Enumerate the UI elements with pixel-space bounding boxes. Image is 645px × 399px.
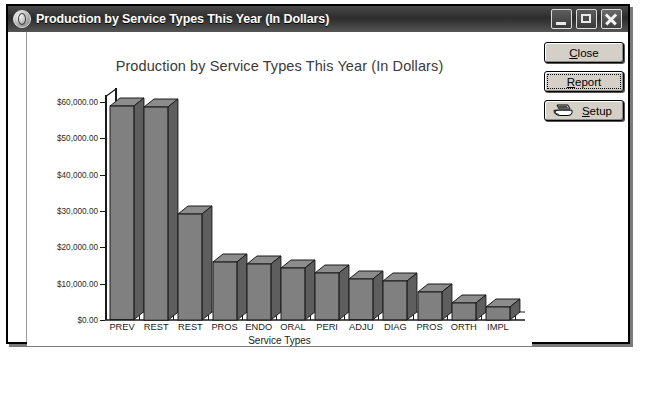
window-controls <box>551 9 622 29</box>
chart-panel: Production by Service Types This Year (I… <box>27 32 532 346</box>
x-tick-mark <box>447 315 448 320</box>
report-button[interactable]: Report <box>544 71 624 92</box>
y-tick-label: $0.00 <box>34 316 98 325</box>
bar <box>178 206 202 320</box>
close-button-label: Close <box>569 47 598 59</box>
bar-3d-faces <box>144 99 178 320</box>
x-tick-label: PROS <box>211 322 237 332</box>
x-tick-mark <box>310 315 311 320</box>
chart-window: Production by Service Types This Year (I… <box>6 4 630 344</box>
bar-3d-faces <box>213 254 247 320</box>
x-tick-label: IMPL <box>487 322 509 332</box>
report-button-label: Report <box>567 76 602 88</box>
x-tick-mark <box>481 315 482 320</box>
y-tick-label: $30,000.00 <box>34 207 98 216</box>
window-title: Production by Service Types This Year (I… <box>36 12 329 26</box>
bar <box>452 295 476 320</box>
bar <box>144 99 168 320</box>
close-button[interactable]: Close <box>544 42 624 63</box>
x-tick-label: REST <box>178 322 203 332</box>
bar-3d-faces <box>247 256 281 320</box>
y-tick-label: $40,000.00 <box>34 170 98 179</box>
x-tick-mark <box>242 315 243 320</box>
bar <box>418 284 442 320</box>
x-axis-title: Service Types <box>27 335 532 346</box>
bar-3d-faces <box>178 206 212 320</box>
x-tick-label: REST <box>144 322 169 332</box>
y-tick-label: $10,000.00 <box>34 279 98 288</box>
bar-chart-plot: $60,000.00$50,000.00$40,000.00$30,000.00… <box>27 32 532 346</box>
x-tick-mark <box>276 315 277 320</box>
maximize-button[interactable] <box>576 9 597 29</box>
bar <box>486 299 510 320</box>
x-tick-label: ADJU <box>349 322 373 332</box>
bar-3d-faces <box>349 271 383 320</box>
bar-3d-faces <box>315 265 349 320</box>
bar-3d-faces <box>281 260 315 320</box>
x-tick-label: ORTH <box>451 322 477 332</box>
x-tick-label: ORAL <box>280 322 305 332</box>
x-tick-label: ENDO <box>245 322 272 332</box>
x-tick-label: PROS <box>416 322 442 332</box>
y-tick-label: $60,000.00 <box>34 98 98 107</box>
window-title-bar[interactable]: Production by Service Types This Year (I… <box>8 6 628 33</box>
y-tick-mark <box>100 102 105 103</box>
bar-3d-faces <box>383 273 417 320</box>
printer-icon <box>552 104 574 118</box>
bar <box>315 265 339 320</box>
bar-3d-faces <box>110 98 144 320</box>
setup-button-label: Setup <box>582 105 612 117</box>
x-tick-mark <box>208 315 209 320</box>
y-tick-mark <box>100 247 105 248</box>
y-tick-mark <box>100 211 105 212</box>
x-tick-label: PREV <box>109 322 134 332</box>
y-tick-label: $20,000.00 <box>34 243 98 252</box>
bar <box>247 256 271 320</box>
bar <box>281 260 305 320</box>
y-tick-label: $50,000.00 <box>34 134 98 143</box>
bar <box>213 254 237 320</box>
x-tick-label: PERI <box>316 322 338 332</box>
y-tick-mark <box>100 175 105 176</box>
close-icon[interactable] <box>601 9 622 29</box>
x-tick-label: DIAG <box>384 322 407 332</box>
bar <box>110 98 134 320</box>
x-tick-mark <box>378 315 379 320</box>
x-tick-mark <box>413 315 414 320</box>
action-button-column: CloseReportSetup <box>544 42 628 129</box>
y-tick-mark <box>100 320 105 321</box>
x-tick-mark <box>139 315 140 320</box>
x-tick-mark <box>173 315 174 320</box>
app-globe-icon <box>13 10 31 28</box>
y-axis-front-line <box>105 95 107 320</box>
y-tick-mark <box>100 284 105 285</box>
window-client-area: Production by Service Types This Year (I… <box>8 32 628 342</box>
bar <box>349 271 373 320</box>
x-tick-mark <box>344 315 345 320</box>
setup-button[interactable]: Setup <box>544 100 624 121</box>
x-tick-mark <box>515 315 516 320</box>
bar <box>383 273 407 320</box>
y-tick-mark <box>100 138 105 139</box>
minimize-button[interactable] <box>551 9 572 29</box>
